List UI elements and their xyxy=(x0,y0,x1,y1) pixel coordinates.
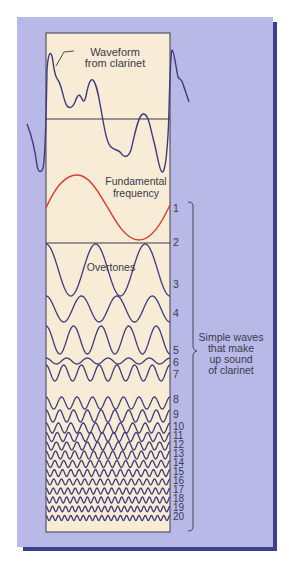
harmonic-numbers: 1234567891011121314151617181920 xyxy=(173,202,185,522)
harmonic-number-7: 7 xyxy=(173,368,179,380)
harmonic-number-6: 6 xyxy=(173,356,179,368)
harmonic-number-9: 9 xyxy=(173,408,179,420)
harmonic-number-20: 20 xyxy=(173,511,185,522)
waveform-label-line2: from clarinet xyxy=(85,57,146,69)
harmonic-number-1: 1 xyxy=(173,202,179,214)
overtones-label: Overtones xyxy=(87,261,135,273)
clarinet-harmonics-diagram: Waveform from clarinet Fundamental frequ… xyxy=(0,0,289,566)
harmonic-number-3: 3 xyxy=(173,278,179,290)
harmonic-number-4: 4 xyxy=(173,307,179,319)
harmonic-number-8: 8 xyxy=(173,393,179,405)
caption-line4: of clarinet xyxy=(208,364,254,376)
fundamental-label-line2: frequency xyxy=(113,187,160,199)
curly-bracket xyxy=(188,202,197,531)
harmonic-number-5: 5 xyxy=(173,344,179,356)
harmonic-number-2: 2 xyxy=(173,236,179,248)
waveform-box xyxy=(46,33,170,532)
fundamental-label-line1: Fundamental xyxy=(105,175,166,187)
